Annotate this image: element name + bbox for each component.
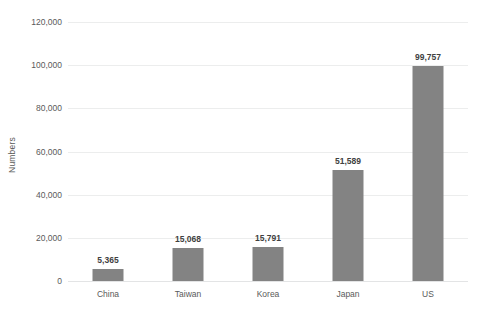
x-axis-category-label: Taiwan <box>175 289 201 299</box>
y-axis-tick-label: 40,000 <box>36 190 62 200</box>
y-axis-tick-label: 100,000 <box>31 60 62 70</box>
x-axis-category-label: Korea <box>257 289 280 299</box>
bars-layer: 5,365China15,068Taiwan15,791Korea51,589J… <box>68 0 468 309</box>
y-axis-tick-label: 80,000 <box>36 103 62 113</box>
plot-area: 5,365China15,068Taiwan15,791Korea51,589J… <box>68 0 468 309</box>
x-axis-category-label: US <box>422 289 434 299</box>
x-axis-category-label: Japan <box>336 289 359 299</box>
bar-chart: Numbers 020,00040,00060,00080,000100,000… <box>0 0 478 309</box>
bar-group: 15,791Korea <box>228 0 308 309</box>
y-axis-tick-label: 0 <box>57 276 62 286</box>
bar-value-label: 51,589 <box>335 156 361 166</box>
y-axis-tick-label: 20,000 <box>36 233 62 243</box>
bar[interactable] <box>93 269 124 281</box>
bar[interactable] <box>413 66 444 281</box>
bar-group: 15,068Taiwan <box>148 0 228 309</box>
y-axis-title-label: Numbers <box>7 137 17 173</box>
bar[interactable] <box>333 170 364 281</box>
bar-group: 51,589Japan <box>308 0 388 309</box>
y-axis-tick-label: 120,000 <box>31 17 62 27</box>
bar-value-label: 99,757 <box>415 52 441 62</box>
bar[interactable] <box>253 247 284 281</box>
bar[interactable] <box>173 248 204 281</box>
y-axis-tick-label: 60,000 <box>36 147 62 157</box>
x-axis-category-label: China <box>97 289 119 299</box>
y-axis-tick-labels: 020,00040,00060,00080,000100,000120,000 <box>24 0 66 309</box>
bar-value-label: 5,365 <box>97 255 118 265</box>
y-axis-title: Numbers <box>0 0 24 309</box>
bar-value-label: 15,791 <box>255 233 281 243</box>
bar-group: 99,757US <box>388 0 468 309</box>
bar-value-label: 15,068 <box>175 234 201 244</box>
bar-group: 5,365China <box>68 0 148 309</box>
